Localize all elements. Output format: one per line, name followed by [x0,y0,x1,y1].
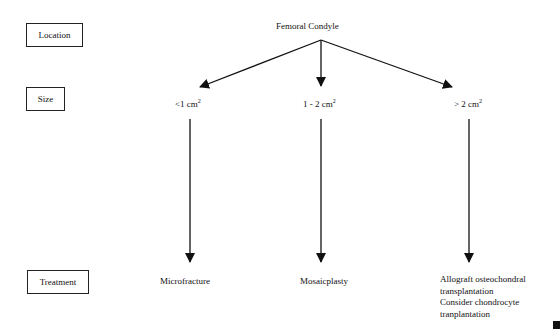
size-large: > 2 cm2 [454,98,482,109]
arrow-root-to-small [200,40,321,87]
treatment-mosaicplasty: Mosaicplasty [300,276,348,288]
size-small: <1 cm2 [175,98,201,109]
end-of-figure-marker [553,321,560,329]
treatment-allograft: Allograft osteochondral transplantation … [440,274,526,320]
treatment-microfracture: Microfracture [160,276,210,288]
arrow-root-to-large [321,40,452,87]
size-medium: 1 - 2 cm2 [303,98,336,109]
